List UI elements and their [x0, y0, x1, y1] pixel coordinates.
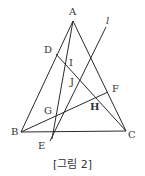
segment-ac [73, 21, 126, 131]
label-l: l [106, 15, 109, 26]
label-i: I [69, 57, 73, 68]
label-a: A [68, 6, 77, 17]
label-f: F [112, 83, 119, 94]
line-l [50, 27, 106, 141]
label-h: H [90, 101, 99, 112]
label-d: D [44, 44, 52, 55]
label-j: J [69, 76, 74, 87]
label-g: G [44, 105, 52, 116]
label-c: C [128, 129, 136, 140]
label-e: E [38, 140, 45, 151]
label-b: B [11, 126, 18, 137]
geometry-figure: A l D I J F H G B E C [0, 0, 145, 176]
segment-bc [21, 131, 126, 132]
figure-caption: [그림 2] [0, 155, 145, 171]
